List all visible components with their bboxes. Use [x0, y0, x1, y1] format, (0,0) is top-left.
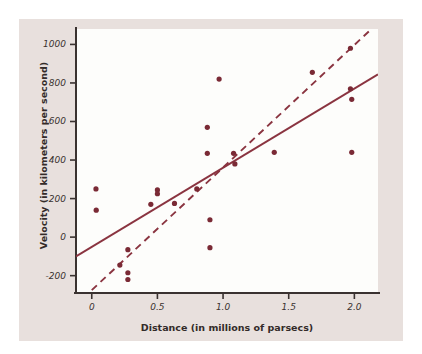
data-point-5	[125, 277, 130, 282]
y-tick-label-5: 800	[0, 78, 66, 88]
x-tick-label-2: 1.0	[216, 302, 230, 312]
data-point-13	[207, 217, 212, 222]
y-tick-label-0: -200	[0, 271, 66, 281]
dashed-fit-line	[92, 29, 372, 290]
fit-lines-group	[76, 29, 378, 290]
y-tick-label-4: 600	[0, 116, 66, 126]
data-point-3	[125, 247, 130, 252]
x-tick-label-3: 1.5	[282, 302, 296, 312]
data-point-22	[349, 97, 354, 102]
solid-fit-line	[76, 74, 378, 256]
data-point-4	[125, 270, 130, 275]
x-tick-label-4: 2.0	[347, 302, 361, 312]
data-point-10	[194, 186, 199, 191]
axes-group	[74, 27, 380, 293]
data-point-21	[348, 86, 353, 91]
data-point-14	[207, 245, 212, 250]
data-point-1	[94, 208, 99, 213]
data-point-20	[348, 46, 353, 51]
data-point-15	[217, 77, 222, 82]
scatter-plot-svg	[0, 0, 422, 354]
data-point-17	[232, 161, 237, 166]
data-point-8	[155, 191, 160, 196]
data-point-9	[172, 201, 177, 206]
chart-page: -20002004006008001000 00.51.01.52.0 Dist…	[0, 0, 422, 354]
data-point-19	[310, 70, 315, 75]
x-tick-label-0: 0	[89, 302, 95, 312]
y-tick-label-2: 200	[0, 194, 66, 204]
data-point-23	[349, 150, 354, 155]
data-point-2	[117, 262, 122, 267]
y-tick-label-3: 400	[0, 155, 66, 165]
x-tick-label-1: 0.5	[150, 302, 164, 312]
x-axis-title: Distance (in millions of parsecs)	[76, 322, 378, 333]
data-point-0	[93, 186, 98, 191]
data-point-12	[205, 125, 210, 130]
data-point-11	[205, 151, 210, 156]
data-point-16	[231, 151, 236, 156]
data-point-18	[272, 150, 277, 155]
ticks-group	[70, 44, 354, 299]
y-axis-title: Velocity (in kilometers per second)	[38, 41, 49, 271]
data-point-6	[148, 202, 153, 207]
y-tick-label-6: 1000	[0, 39, 66, 49]
y-tick-label-1: 0	[0, 232, 66, 242]
